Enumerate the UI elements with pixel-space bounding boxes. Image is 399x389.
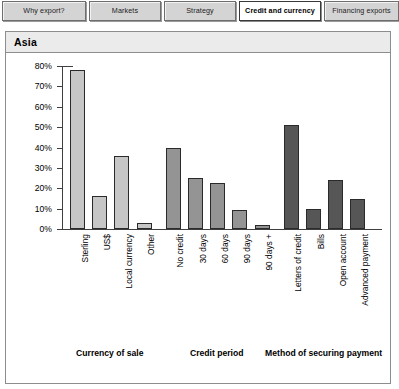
- x-axis-tick-label-text: US$: [103, 234, 111, 250]
- x-axis-tick-label: Other: [147, 234, 155, 255]
- card-header: Asia: [6, 32, 390, 53]
- tab-strategy[interactable]: Strategy: [164, 1, 236, 21]
- plot-area: [63, 66, 381, 229]
- y-axis-tick-label: 70%: [22, 82, 52, 91]
- tab-label: Financing exports: [332, 7, 390, 14]
- tab-bar: Why export? Markets Strategy Credit and …: [0, 0, 398, 26]
- tab-markets[interactable]: Markets: [89, 1, 161, 21]
- x-axis-tick-label: Letters of credit: [294, 234, 302, 292]
- x-axis-tick-label: 90 days +: [265, 234, 273, 271]
- y-axis-tick-label: 0%: [22, 225, 52, 234]
- y-axis-tick: [57, 229, 62, 230]
- bar: [210, 183, 225, 229]
- x-axis-tick-label: Local currency: [125, 234, 133, 288]
- bar: [350, 199, 365, 229]
- x-axis-tick-label-text: No credit: [176, 234, 184, 268]
- tab-label: Credit and currency: [245, 7, 315, 14]
- x-axis-tick-label-text: 60 days: [221, 234, 229, 263]
- x-axis-tick-label-text: Other: [147, 234, 155, 255]
- y-axis-tick-label: 50%: [22, 123, 52, 132]
- group-caption: Currency of sale: [50, 349, 170, 359]
- bar: [255, 225, 270, 229]
- bar: [92, 196, 107, 229]
- tab-label: Strategy: [186, 7, 214, 14]
- x-axis-tick-label-text: 90 days: [243, 234, 251, 263]
- x-axis-tick-label: 60 days: [221, 234, 229, 263]
- bar-chart: 0%10%20%30%40%50%60%70%80% SterlingUS$Lo…: [6, 53, 390, 383]
- bar: [114, 156, 129, 229]
- tab-financing-exports[interactable]: Financing exports: [324, 1, 399, 21]
- group-caption: Method of securing payment: [259, 349, 389, 359]
- x-axis-tick-label: Advanced payment: [361, 234, 369, 306]
- tab-credit-and-currency[interactable]: Credit and currency: [239, 1, 321, 21]
- bar: [166, 148, 181, 230]
- x-axis-tick-label: Open account: [339, 234, 347, 286]
- chart-card: Asia 0%10%20%30%40%50%60%70%80% Sterling…: [5, 31, 391, 384]
- x-axis-tick-label-text: Open account: [339, 234, 347, 286]
- y-axis-tick: [57, 66, 62, 67]
- tab-label: Markets: [112, 7, 138, 14]
- y-axis-tick-label: 80%: [22, 62, 52, 71]
- y-axis-tick-label: 40%: [22, 144, 52, 153]
- y-axis-tick: [57, 148, 62, 149]
- x-axis-tick-label: No credit: [176, 234, 184, 268]
- bar: [137, 223, 152, 229]
- region-title: Asia: [14, 36, 37, 48]
- y-axis-tick-label: 10%: [22, 205, 52, 214]
- x-axis-tick-label-text: Bills: [317, 234, 325, 249]
- x-axis-tick-label-text: Local currency: [125, 234, 133, 288]
- x-axis-tick-label: 30 days: [199, 234, 207, 263]
- group-caption: Credit period: [162, 349, 272, 359]
- x-axis-line: [62, 229, 382, 230]
- x-axis-tick-label: Sterling: [81, 234, 89, 262]
- bar: [188, 178, 203, 229]
- y-axis-tick: [57, 209, 62, 210]
- y-axis-tick: [57, 107, 62, 108]
- tab-why-export[interactable]: Why export?: [2, 1, 86, 21]
- x-axis-tick-label-text: 90 days +: [265, 234, 273, 271]
- bar: [70, 70, 85, 229]
- y-axis-tick: [57, 86, 62, 87]
- y-axis-tick-label: 60%: [22, 103, 52, 112]
- tab-label: Why export?: [23, 7, 64, 14]
- x-axis-tick-label: US$: [103, 234, 111, 250]
- x-axis-tick-label-text: Letters of credit: [294, 234, 302, 292]
- bar: [328, 180, 343, 229]
- x-axis-tick-label-text: 30 days: [199, 234, 207, 263]
- bar: [284, 125, 299, 229]
- y-axis-tick-label: 20%: [22, 184, 52, 193]
- y-axis-tick: [57, 188, 62, 189]
- bar: [306, 209, 321, 229]
- x-axis-tick-label-text: Sterling: [81, 234, 89, 262]
- y-axis-tick: [57, 127, 62, 128]
- y-axis-tick: [57, 168, 62, 169]
- x-axis-tick-label: 90 days: [243, 234, 251, 263]
- x-axis-tick-label: Bills: [317, 234, 325, 249]
- y-axis-tick-label: 30%: [22, 164, 52, 173]
- x-axis-tick-label-text: Advanced payment: [361, 234, 369, 306]
- bar: [232, 210, 247, 229]
